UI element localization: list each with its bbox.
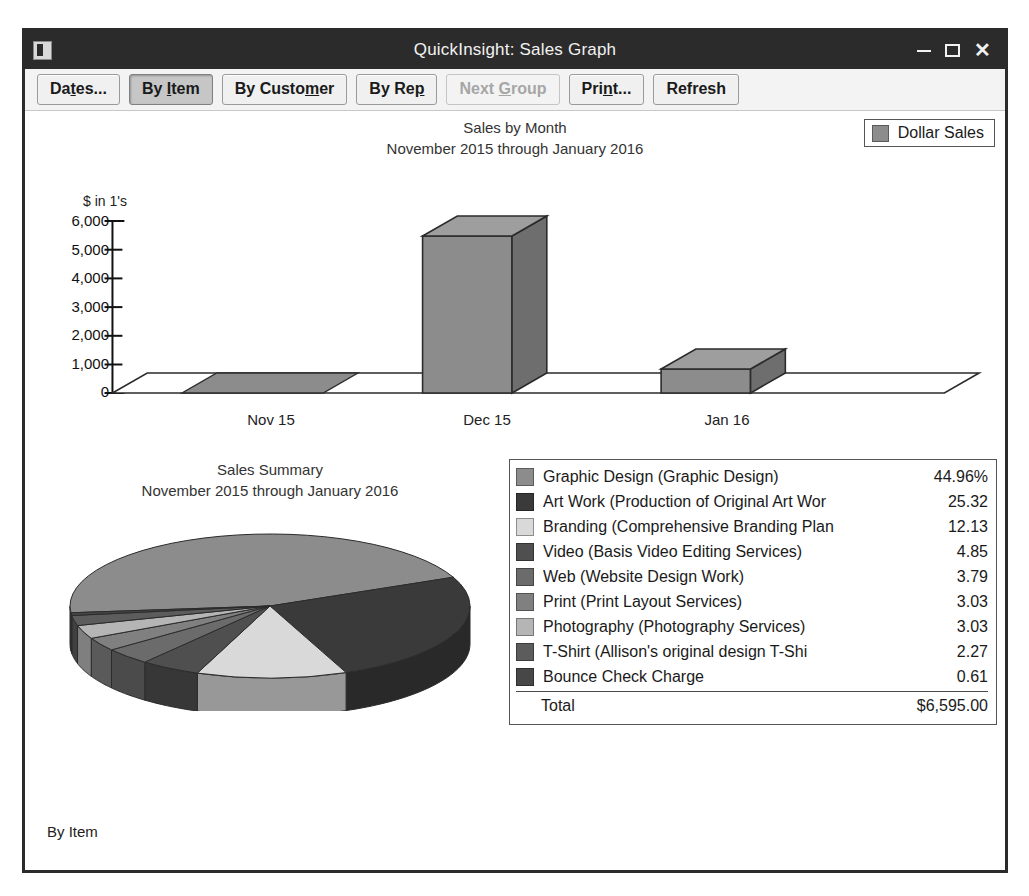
pie-legend-value: 3.79: [957, 568, 988, 586]
toolbar-button-by-rep[interactable]: By Rep: [356, 74, 437, 105]
toolbar-button-dates[interactable]: Dates...: [37, 74, 120, 105]
pie-legend-value: 44.96%: [934, 468, 988, 486]
pie-legend-row: Art Work (Production of Original Art Wor…: [516, 489, 988, 514]
pie-legend-swatch-icon: [516, 568, 534, 586]
pie-legend-swatch-icon: [516, 618, 534, 636]
window-title: QuickInsight: Sales Graph: [25, 40, 1005, 60]
minimize-icon[interactable]: [917, 42, 931, 58]
pie-legend-row: Bounce Check Charge0.61: [516, 664, 988, 689]
pie-legend-value: 2.27: [957, 643, 988, 661]
pie-legend-swatch-icon: [516, 643, 534, 661]
pie-chart-title-line2: November 2015 through January 2016: [35, 480, 505, 501]
pie-legend-total-value: $6,595.00: [917, 697, 988, 715]
pie-legend-label: Web (Website Design Work): [543, 568, 949, 586]
pie-legend-total-label: Total: [541, 697, 909, 715]
maximize-icon[interactable]: [945, 44, 960, 57]
pie-legend-label: Print (Print Layout Services): [543, 593, 949, 611]
pie-legend-swatch-icon: [516, 668, 534, 686]
pie-legend-label: Branding (Comprehensive Branding Plan: [543, 518, 940, 536]
pie-legend-value: 25.32: [948, 493, 988, 511]
status-text: By Item: [47, 823, 98, 840]
pie-legend-label: Bounce Check Charge: [543, 668, 949, 686]
pie-legend-value: 3.03: [957, 593, 988, 611]
pie-legend-label: Art Work (Production of Original Art Wor: [543, 493, 940, 511]
pie-chart-legend: Graphic Design (Graphic Design)44.96%Art…: [509, 459, 997, 725]
close-icon[interactable]: ✕: [974, 40, 991, 60]
pie-legend-label: T-Shirt (Allison's original design T-Shi: [543, 643, 949, 661]
toolbar-button-refresh[interactable]: Refresh: [653, 74, 739, 105]
x-tick-label: Dec 15: [463, 411, 511, 428]
pie-legend-total-row: Total $6,595.00: [516, 691, 988, 719]
pie-legend-swatch-icon: [516, 543, 534, 561]
app-icon: [33, 41, 52, 60]
bar-chart-panel: Sales by Month November 2015 through Jan…: [25, 111, 1005, 451]
window-controls: ✕: [917, 40, 1005, 60]
pie-legend-row: T-Shirt (Allison's original design T-Shi…: [516, 639, 988, 664]
pie-chart-title: Sales Summary November 2015 through Janu…: [35, 459, 505, 501]
pie-legend-label: Photography (Photography Services): [543, 618, 949, 636]
bar-chart-graphic: [25, 111, 1005, 451]
pie-legend-swatch-icon: [516, 593, 534, 611]
pie-legend-value: 3.03: [957, 618, 988, 636]
pie-legend-row: Branding (Comprehensive Branding Plan12.…: [516, 514, 988, 539]
report-content: Sales by Month November 2015 through Jan…: [25, 111, 1005, 870]
pie-chart-title-line1: Sales Summary: [217, 461, 323, 478]
pie-legend-swatch-icon: [516, 468, 534, 486]
pie-legend-label: Graphic Design (Graphic Design): [543, 468, 926, 486]
pie-chart-graphic: [55, 511, 485, 711]
toolbar-button-next-group: Next Group: [446, 74, 559, 105]
pie-slice-side: [71, 613, 72, 654]
title-bar: QuickInsight: Sales Graph ✕: [25, 31, 1005, 69]
pie-chart-panel: Sales Summary November 2015 through Janu…: [25, 451, 1005, 781]
toolbar-button-by-customer[interactable]: By Customer: [222, 74, 348, 105]
pie-legend-row: Photography (Photography Services)3.03: [516, 614, 988, 639]
pie-legend-row: Video (Basis Video Editing Services)4.85: [516, 539, 988, 564]
pie-legend-row: Web (Website Design Work)3.79: [516, 564, 988, 589]
pie-legend-value: 0.61: [957, 668, 988, 686]
pie-legend-label: Video (Basis Video Editing Services): [543, 543, 949, 561]
x-tick-label: Nov 15: [247, 411, 295, 428]
pie-legend-value: 12.13: [948, 518, 988, 536]
pie-legend-row: Print (Print Layout Services)3.03: [516, 589, 988, 614]
toolbar-button-by-item[interactable]: By Item: [129, 74, 213, 105]
pie-legend-value: 4.85: [957, 543, 988, 561]
pie-legend-row: Graphic Design (Graphic Design)44.96%: [516, 464, 988, 489]
toolbar-button-print[interactable]: Print...: [569, 74, 645, 105]
toolbar: Dates...By ItemBy CustomerBy RepNext Gro…: [25, 69, 1005, 111]
pie-legend-swatch-icon: [516, 518, 534, 536]
x-tick-label: Jan 16: [704, 411, 749, 428]
application-window: QuickInsight: Sales Graph ✕ Dates...By I…: [22, 28, 1008, 873]
pie-legend-swatch-icon: [516, 493, 534, 511]
